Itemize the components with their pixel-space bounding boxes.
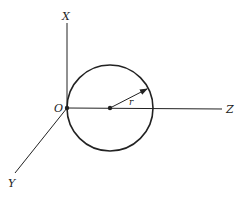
diagram-canvas: X Z Y O r [0,0,240,199]
z-axis-line [67,108,222,109]
x-axis-label: X [61,10,71,23]
z-axis-label: Z [225,103,234,116]
y-axis-line [15,108,67,173]
origin-label: O [54,102,63,115]
origin-dot [65,106,69,110]
radius-label: r [129,97,134,107]
axes-circle-diagram: X Z Y O r [0,0,240,199]
y-axis-label: Y [8,177,17,190]
